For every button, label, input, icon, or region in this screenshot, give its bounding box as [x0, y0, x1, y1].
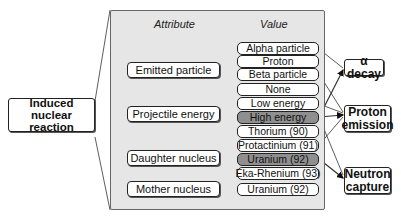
value-label: None	[265, 84, 290, 95]
value-eka-rhenium-93: Eka-Rhenium (93)	[237, 167, 319, 180]
attribute-projectile-energy: Projectile energy	[127, 106, 220, 122]
value-label: Alpha particle	[246, 43, 310, 54]
value-label: Uranium (92)	[247, 154, 308, 165]
root-node-induced-nuclear-reaction: Induced nuclear reaction	[8, 98, 95, 132]
value-label: High energy	[250, 112, 307, 123]
value-uranium-92-daughter: Uranium (92)	[237, 153, 319, 166]
value-uranium-92-mother: Uranium (92)	[237, 183, 319, 196]
outcome-label: α decay	[345, 55, 383, 80]
value-low-energy: Low energy	[237, 97, 319, 110]
value-label: Eka-Rhenium (93)	[235, 168, 320, 179]
value-proton: Proton	[237, 55, 319, 68]
value-high-energy: High energy	[237, 111, 319, 124]
attribute-label: Emitted particle	[136, 65, 212, 76]
outcome-proton-emission: Proton emission	[344, 105, 391, 132]
value-none: None	[237, 83, 319, 96]
attribute-daughter-nucleus: Daughter nucleus	[127, 150, 220, 166]
attribute-label: Daughter nucleus	[130, 153, 216, 164]
attribute-mother-nucleus: Mother nucleus	[127, 181, 220, 197]
outcome-label: Neutron capture	[345, 168, 391, 193]
value-thorium-90: Thorium (90)	[237, 125, 319, 138]
value-beta-particle: Beta particle	[237, 68, 319, 81]
value-protactinium-91: Protactinium (91)	[237, 139, 319, 152]
attribute-emitted-particle: Emitted particle	[127, 62, 220, 78]
attribute-label: Mother nucleus	[136, 184, 211, 195]
outcome-alpha-decay: α decay	[344, 59, 384, 76]
outcome-label: Proton emission	[342, 106, 394, 131]
value-label: Thorium (90)	[248, 126, 308, 137]
attribute-header: Attribute	[154, 18, 195, 30]
attribute-label: Projectile energy	[133, 109, 215, 120]
value-alpha-particle: Alpha particle	[237, 42, 319, 55]
value-label: Uranium (92)	[247, 184, 308, 195]
value-label: Beta particle	[249, 69, 307, 80]
outcome-neutron-capture: Neutron capture	[344, 167, 391, 194]
root-node-label: Induced nuclear reaction	[9, 97, 94, 133]
value-label: Low energy	[251, 98, 305, 109]
value-label: Proton	[263, 56, 294, 67]
value-label: Protactinium (91)	[238, 140, 318, 151]
value-header: Value	[260, 18, 288, 30]
